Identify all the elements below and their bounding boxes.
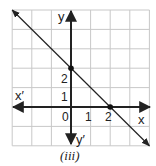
x-tick-1: 1	[85, 110, 92, 124]
graph-line	[12, 10, 149, 146]
y-axis-label: y	[58, 9, 65, 24]
figure-caption: (iii)	[60, 148, 80, 163]
x-neg-axis-label: x′	[15, 88, 25, 103]
x-axis-label: x	[138, 112, 145, 127]
point-x-intercept	[107, 104, 113, 110]
coordinate-graph: y y′ x x′ 0 1 2 1 2 (iii)	[0, 0, 156, 166]
x-tick-2: 2	[105, 110, 112, 124]
origin-label: 0	[62, 110, 69, 124]
y-tick-1: 1	[61, 90, 68, 104]
y-neg-axis-label: y′	[76, 132, 86, 147]
point-y-intercept	[68, 65, 74, 71]
y-tick-2: 2	[61, 72, 68, 86]
